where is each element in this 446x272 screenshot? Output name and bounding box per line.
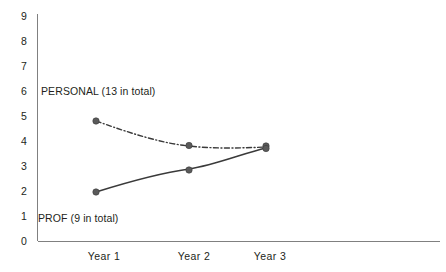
data-point-prof-year-1 [93,189,99,195]
y-tick-label-0: 0 [21,235,27,247]
series-annotation-personal: PERSONAL (13 in total) [41,85,155,97]
y-tick-label-6: 6 [21,85,27,97]
data-point-prof-year-2 [186,167,192,173]
chart-canvas: 9 8 7 6 5 4 3 2 1 0 Year 1 Year 2 Year 3… [0,0,446,272]
y-tick-label-3: 3 [21,160,27,172]
y-tick-label-5: 5 [21,110,27,122]
y-tick-label-2: 2 [21,185,27,197]
data-point-prof-year-3 [263,145,269,151]
series-annotation-prof: PROF (9 in total) [38,212,118,224]
series-line-prof [96,148,266,192]
y-tick-label-7: 7 [21,60,27,72]
y-tick-label-4: 4 [21,135,27,147]
y-tick-label-8: 8 [21,35,27,47]
data-point-personal-year-1 [93,118,99,124]
y-tick-label-9: 9 [21,10,27,22]
line-chart: 9 8 7 6 5 4 3 2 1 0 Year 1 Year 2 Year 3… [0,0,446,272]
data-point-personal-year-2 [186,142,192,148]
x-tick-label-year-3: Year 3 [254,250,286,262]
series-line-personal [96,121,266,148]
x-tick-label-year-1: Year 1 [88,250,120,262]
x-tick-label-year-2: Year 2 [178,250,210,262]
y-tick-label-1: 1 [21,210,27,222]
